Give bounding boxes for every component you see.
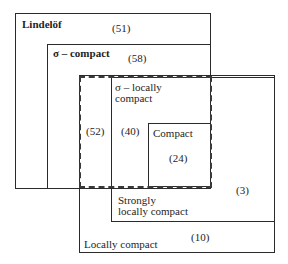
sigma-locally-compact-outer-count: (52) bbox=[86, 126, 104, 137]
lindelof-label: Lindelöf bbox=[22, 19, 62, 30]
sigma-compact-label: σ – compact bbox=[53, 48, 110, 59]
strongly-locally-compact-count: (3) bbox=[236, 185, 249, 196]
lindelof-count: (51) bbox=[112, 23, 130, 34]
locally-compact-label: Locally compact bbox=[84, 239, 158, 250]
sigma-compact-count: (58) bbox=[128, 53, 146, 64]
strongly-locally-compact-label: Strongly locally compact bbox=[118, 195, 188, 217]
locally-compact-count: (10) bbox=[191, 232, 209, 243]
compact-count: (24) bbox=[169, 153, 187, 164]
sigma-locally-compact-count: (40) bbox=[121, 126, 139, 137]
sigma-locally-compact-label: σ – locally compact bbox=[115, 82, 162, 104]
compact-label: Compact bbox=[153, 128, 193, 139]
